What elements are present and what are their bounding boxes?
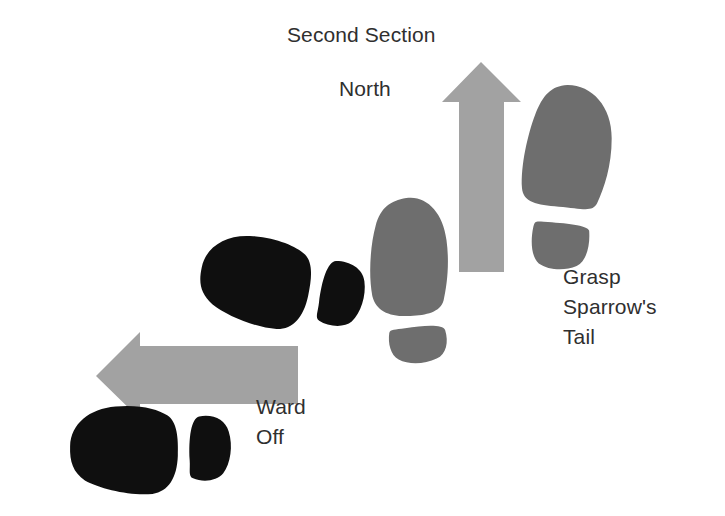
gray-left-footprint (366, 196, 453, 366)
label-north: North (339, 76, 391, 102)
label-grasp-sparrows-tail: Grasp Sparrow's Tail (563, 262, 657, 352)
label-ward-off: Ward Off (256, 392, 306, 452)
north-arrow (442, 62, 521, 272)
gray-right-footprint (516, 82, 616, 272)
black-lower-footprint (69, 404, 233, 497)
black-upper-footprint (192, 226, 371, 346)
label-second-section: Second Section (287, 22, 436, 48)
diagram-canvas: Second Section North Grasp Sparrow's Tai… (0, 0, 725, 516)
